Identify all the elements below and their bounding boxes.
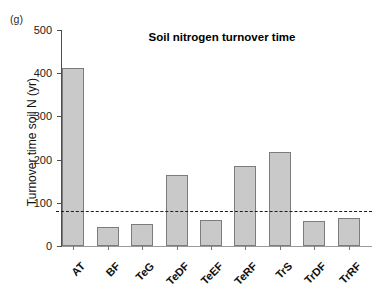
bar [269, 152, 291, 246]
y-tick-label: 100 [0, 197, 52, 209]
y-tick-label: 0 [0, 240, 52, 252]
bars-layer [62, 30, 372, 246]
x-tick-mark [108, 246, 109, 250]
bar [200, 220, 222, 246]
bar [131, 224, 153, 246]
bar [97, 227, 119, 246]
x-tick-mark [349, 246, 350, 250]
y-tick-mark [57, 30, 62, 31]
x-tick-mark [73, 246, 74, 250]
x-tick-mark [314, 246, 315, 250]
plot-area [62, 30, 372, 246]
bar [62, 68, 84, 246]
y-tick-label: 500 [0, 24, 52, 36]
y-tick-label: 400 [0, 67, 52, 79]
x-tick-mark [245, 246, 246, 250]
y-tick-mark [57, 246, 62, 247]
figure-panel-g: (g) Turnover time soil N (yr) Soil nitro… [0, 0, 382, 297]
y-tick-mark [57, 116, 62, 117]
y-tick-label: 300 [0, 110, 52, 122]
bar [303, 221, 325, 246]
y-tick-mark [57, 203, 62, 204]
y-tick-label: 200 [0, 154, 52, 166]
x-tick-label-at: AT [14, 260, 88, 297]
y-tick-mark [57, 73, 62, 74]
x-tick-mark [211, 246, 212, 250]
bar [338, 218, 360, 246]
global-mean-reference-line [56, 211, 372, 212]
bar [234, 166, 256, 246]
x-tick-mark [280, 246, 281, 250]
x-tick-mark [177, 246, 178, 250]
x-tick-mark [142, 246, 143, 250]
y-tick-mark [57, 160, 62, 161]
